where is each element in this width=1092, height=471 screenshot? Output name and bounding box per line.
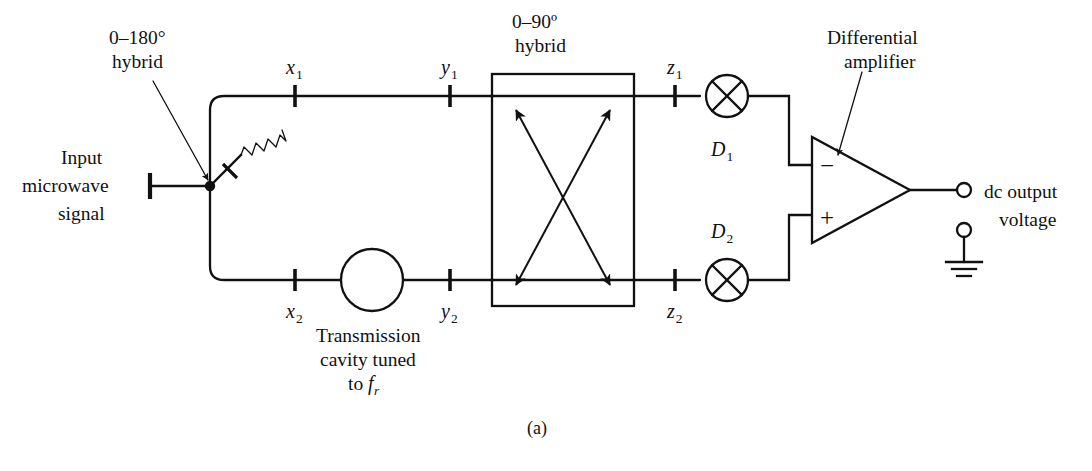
diff-amp-label-line2: amplifier [844, 51, 916, 72]
cavity-label-fr-sub: r [374, 383, 380, 398]
output-label-line2: voltage [999, 209, 1056, 230]
hybrid-90-label-line2: hybrid [515, 35, 566, 56]
output-label-line1: dc output [984, 181, 1058, 202]
node-label-z1: z1 [666, 56, 683, 82]
detector-label-d2: D2 [710, 220, 733, 246]
hybrid-180-label-line2: hybrid [112, 51, 163, 72]
figure-caption: (a) [527, 418, 547, 439]
cavity-label-line1: Transmission [316, 325, 421, 346]
d1-to-amp-minus-wire [748, 96, 812, 165]
figure-container: 0–180° hybrid Input microwave signal 0–9… [0, 0, 1092, 471]
input-label-line2: microwave [22, 175, 109, 196]
diff-amp-label-line1: Differential [827, 27, 918, 48]
matched-load-resistor-icon [241, 130, 286, 155]
output-terminal-icon [957, 183, 971, 197]
termination-stub-wire [210, 155, 241, 186]
cavity-label-line2: cavity tuned [320, 349, 416, 370]
hybrid-180-leader-arrow [153, 81, 208, 180]
amp-plus-input-label: + [820, 204, 834, 231]
node-label-x2: x2 [285, 300, 303, 326]
cavity-label-line3-prefix: to [348, 373, 368, 394]
d2-to-amp-plus-wire [748, 215, 812, 280]
diff-amp-leader-arrow [838, 72, 862, 155]
input-label-line1: Input [61, 147, 103, 168]
node-label-y2: y2 [439, 300, 458, 326]
hybrid-180-label-line1: 0–180° [109, 27, 166, 48]
circuit-diagram-canvas: 0–180° hybrid Input microwave signal 0–9… [0, 0, 1092, 471]
amp-minus-input-label: − [820, 152, 834, 179]
node-label-y1: y1 [439, 56, 458, 82]
transmission-cavity-icon [341, 249, 403, 311]
input-label-line3: signal [58, 203, 105, 224]
cavity-label-line3: to fr [348, 372, 380, 398]
node-label-z2: z2 [666, 300, 683, 326]
node-label-x1: x1 [285, 56, 303, 82]
hybrid-90-box [492, 74, 634, 306]
detector-label-d1: D1 [710, 138, 733, 164]
hybrid-90-label-line1: 0–90º [512, 11, 557, 32]
ground-terminal-icon [957, 223, 971, 237]
